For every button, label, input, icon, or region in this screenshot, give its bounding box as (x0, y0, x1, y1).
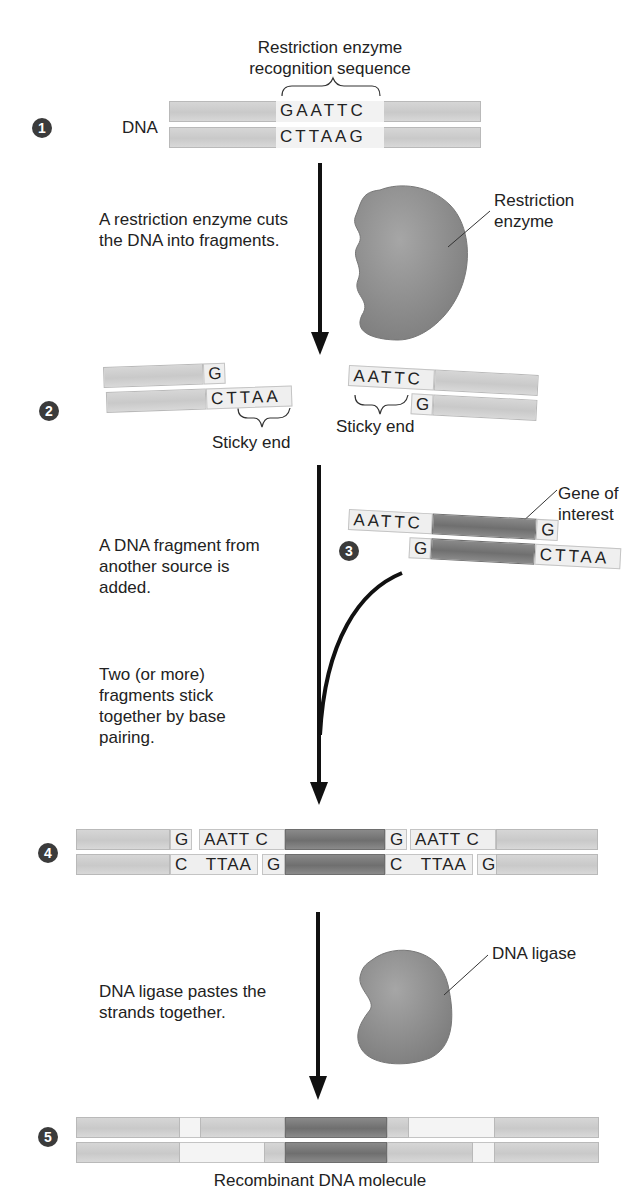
fragment-left: G CTTAA (103, 360, 305, 417)
step-badge-1: 1 (32, 118, 52, 138)
fragment-right-top-strand (434, 370, 539, 396)
recognition-seq-top: GAATTC (276, 101, 384, 122)
step4-bottom-seq-1: C TTAA (170, 854, 258, 875)
gene-bottom-strand (430, 538, 535, 564)
description-pair: Two (or more) fragments stick together b… (99, 664, 259, 748)
restriction-enzyme-shape (355, 186, 468, 340)
diagram-graphics (0, 0, 640, 1196)
fragment-left-bottom-seq: CTTAA (206, 385, 293, 409)
dna-ligase-shape (358, 950, 452, 1064)
step-badge-4: 4 (38, 843, 58, 863)
gene-top-strand (432, 513, 537, 539)
segment (409, 1117, 494, 1138)
step4-bottom-ttaa: TTAA (206, 855, 252, 874)
step-badge-5: 5 (38, 1127, 58, 1147)
fragment-right-bottom-strand (432, 394, 537, 420)
segment (387, 1117, 409, 1138)
fragment-right-bottom-seq: G (411, 393, 434, 415)
fragment-left-bottom-strand (106, 388, 207, 412)
step4-bottom-ttaa2: TTAA (421, 855, 467, 874)
step4-top-right-strand (496, 829, 598, 850)
step4-top-left-strand (76, 829, 170, 850)
step4-bottom-left-strand (76, 854, 170, 875)
restriction-enzyme-label: Restriction enzyme (494, 190, 594, 232)
segment (200, 1117, 285, 1138)
step4-top-seq-4: AATT C (410, 829, 496, 850)
segment (264, 1142, 285, 1163)
sticky-end-label-right: Sticky end (336, 416, 414, 437)
step-badge-2: 2 (39, 401, 59, 421)
foreign-bottom-right-seq: CTTAA (534, 544, 621, 569)
recombinant-bottom-strand (76, 1142, 599, 1163)
recombinant-top-strand (76, 1117, 599, 1138)
dna-ligase-leader (444, 955, 488, 995)
step4-top-seq-3: G (385, 829, 407, 850)
description-add: A DNA fragment from another source is ad… (99, 535, 279, 598)
segment (180, 1142, 264, 1163)
fragment-right-top-seq: AATTC (348, 365, 435, 390)
gene-segment (285, 1117, 387, 1138)
segment (494, 1117, 599, 1138)
step4-top-seq-1: G (170, 829, 192, 850)
recognition-bracket (282, 78, 380, 96)
gene-of-interest-label: Gene of interest (558, 483, 628, 525)
description-cut: A restriction enzyme cuts the DNA into f… (99, 209, 289, 251)
segment (76, 1117, 180, 1138)
dna-label: DNA (122, 117, 158, 138)
description-ligase: DNA ligase pastes the strands together. (99, 981, 289, 1023)
step4-top-seq-2: AATT C (199, 829, 285, 850)
step4-bottom-c2: C (390, 855, 405, 874)
step4-top-gene (285, 829, 385, 850)
dna-ligase-label: DNA ligase (492, 943, 576, 964)
foreign-top-right-seq: G (536, 519, 559, 541)
arrow-step4-to-5 (309, 912, 327, 1100)
fragment-left-top-seq: G (203, 363, 226, 385)
step4-bottom-gene (285, 854, 385, 875)
recombinant-caption: Recombinant DNA molecule (120, 1170, 520, 1191)
foreign-top-left-seq: AATTC (348, 509, 433, 534)
sticky-end-label-left: Sticky end (212, 432, 290, 453)
recognition-sequence-label: Restriction enzyme recognition sequence (225, 37, 435, 79)
recognition-seq-bottom: CTTAAG (276, 127, 384, 148)
segment (76, 1142, 180, 1163)
segment (473, 1142, 494, 1163)
segment (387, 1142, 473, 1163)
step4-bottom-seq-3: C TTAA (385, 854, 473, 875)
step4-bottom-seq-2: G (262, 854, 285, 875)
merge-arrow-curve (320, 573, 402, 735)
fragment-left-top-strand (103, 364, 204, 388)
step4-bottom-c: C (175, 855, 190, 874)
gene-segment (285, 1142, 387, 1163)
segment (180, 1117, 200, 1138)
step4-bottom-right-strand (496, 854, 598, 875)
arrow-step1-to-2 (311, 163, 329, 355)
segment (494, 1142, 599, 1163)
foreign-bottom-left-seq: G (409, 537, 432, 559)
